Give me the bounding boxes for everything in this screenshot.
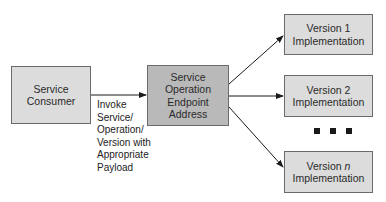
edge-label-line: Invoke bbox=[97, 99, 151, 112]
v1-line2: Implementation bbox=[293, 35, 365, 48]
edge-label-line: Payload bbox=[97, 162, 151, 175]
endpoint-line3: Endpoint bbox=[167, 96, 208, 109]
vn-prefix: Version bbox=[307, 160, 345, 172]
service-consumer-node: Service Consumer bbox=[11, 66, 91, 124]
version-n-node: Version n Implementation bbox=[284, 151, 373, 193]
ellipsis-dot bbox=[314, 128, 320, 134]
version-2-node: Version 2 Implementation bbox=[284, 75, 373, 117]
endpoint-line2: Operation bbox=[165, 83, 211, 96]
edge-label-line: Service/ bbox=[97, 112, 151, 125]
v2-line1: Version 2 bbox=[307, 84, 351, 97]
vn-line2: Implementation bbox=[293, 172, 365, 185]
ellipsis-dot bbox=[346, 128, 352, 134]
edge-label-line: Operation/ bbox=[97, 124, 151, 137]
v2-line2: Implementation bbox=[293, 96, 365, 109]
endpoint-address-node: Service Operation Endpoint Address bbox=[147, 65, 229, 126]
edge-label-line: Version with bbox=[97, 137, 151, 150]
endpoint-line1: Service bbox=[170, 71, 205, 84]
invoke-edge-label: Invoke Service/ Operation/ Version with … bbox=[97, 99, 151, 174]
vn-variable: n bbox=[345, 160, 351, 172]
consumer-line2: Consumer bbox=[27, 95, 75, 108]
endpoint-line4: Address bbox=[169, 108, 208, 121]
v1-line1: Version 1 bbox=[307, 22, 351, 35]
ellipsis-dot bbox=[330, 128, 336, 134]
consumer-line1: Service bbox=[33, 83, 68, 96]
vn-line1: Version n bbox=[307, 160, 351, 173]
version-1-node: Version 1 Implementation bbox=[284, 14, 373, 55]
edge-label-line: Appropriate bbox=[97, 149, 151, 162]
